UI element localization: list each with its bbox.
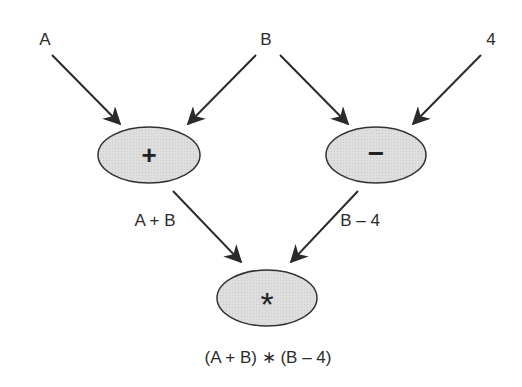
input-label-a: A [39,30,50,50]
result-expression-label: (A + B) ∗ (B – 4) [205,347,332,368]
edge-a-to-plus [52,55,120,124]
edge-label-a-plus-b: A + B [134,211,175,231]
diagram-graphics [0,0,522,387]
expression-tree-diagram: A B 4 + − * A + B B – 4 (A + B) ∗ (B – 4… [0,0,522,387]
edge-4-to-minus [413,55,481,124]
edge-label-b-minus-4: B – 4 [340,211,380,231]
plus-operator-icon: + [141,140,156,171]
edge-plus-to-times [173,191,241,262]
input-label-4: 4 [486,30,495,50]
input-label-b: B [260,30,271,50]
minus-operator-icon: − [368,138,384,170]
times-operator-icon: * [260,285,273,324]
edge-b-to-minus [280,55,348,124]
edge-b-to-plus [188,55,256,124]
